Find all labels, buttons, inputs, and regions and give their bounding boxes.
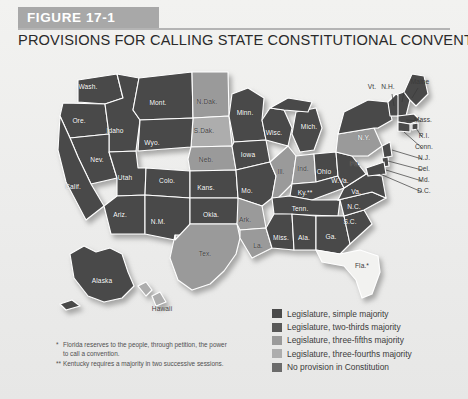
footnote-text: Florida reserves to the people, through …	[63, 341, 227, 348]
footnote-text: to call a convention.	[63, 350, 120, 357]
footnote: **Kentucky requires a majority in two su…	[56, 359, 271, 368]
state-label: Ind.	[297, 165, 308, 172]
state-label: Tex.	[199, 250, 212, 257]
callout-label: N.J.	[418, 154, 430, 161]
state-label: Ark.	[239, 216, 251, 223]
callout-label: Maine	[411, 78, 429, 85]
state-label: Iowa	[241, 151, 255, 158]
callout-label: Del.	[418, 165, 430, 172]
state-label: Alaska	[92, 277, 112, 284]
footnote-text: Kentucky requires a majority in two succ…	[63, 360, 224, 367]
legend-item: Legislature, two-thirds majority	[272, 320, 462, 333]
state-label: Miss.	[273, 234, 289, 241]
state-alaska	[70, 246, 134, 302]
state-label: Ky.**	[298, 189, 313, 196]
state-label: Wash.	[79, 83, 98, 90]
state-label: Kans.	[197, 184, 214, 191]
us-map-svg	[0, 58, 468, 348]
state-label: N.C.	[347, 203, 361, 210]
state-label: Fla.*	[355, 262, 369, 269]
state-label: Wyo.	[144, 139, 159, 146]
state-wisconsin	[262, 108, 292, 146]
figure-number-label: FIGURE 17-1	[27, 10, 115, 25]
footnote: *Florida reserves to the people, through…	[56, 340, 271, 349]
callout-label: Mass.	[414, 116, 432, 123]
state-hawaii	[138, 282, 152, 296]
state-label: S.Dak.	[194, 127, 214, 134]
callout-label: R.I.	[419, 132, 430, 139]
legend-item: No provision in Constitution	[272, 361, 462, 374]
legend-label: Legislature, two-thirds majority	[287, 322, 401, 332]
state-label: N.Dak.	[197, 98, 218, 105]
legend-swatch	[272, 323, 282, 332]
state-florida	[316, 250, 380, 298]
legend-label: No provision in Constitution	[287, 362, 389, 372]
state-new-york	[338, 100, 392, 134]
state-label: La.	[253, 242, 262, 249]
legend-item: Legislature, simple majority	[272, 307, 462, 320]
state-label: Ore.	[72, 117, 85, 124]
state-label: Colo.	[159, 177, 175, 184]
us-map: Wash.Ore.IdahoMont.N.Dak.Minn.Wisc.Mich.…	[0, 58, 468, 348]
state-maryland	[366, 162, 386, 176]
legend-swatch	[272, 336, 282, 345]
state-north-dakota	[192, 72, 229, 118]
state-label: Ariz.	[113, 211, 127, 218]
callout-label: Vt.	[368, 83, 376, 90]
callout-label: Conn.	[415, 143, 433, 150]
callout-label: D.C.	[417, 187, 431, 194]
state-label: Mo.	[241, 187, 252, 194]
state-label: Mont.	[150, 99, 167, 106]
state-label: Mich.	[301, 123, 317, 130]
state-rhode-island	[412, 123, 418, 130]
state-label: Va.	[351, 188, 361, 195]
state-label: Utah	[118, 174, 132, 181]
callout-label: Md.	[418, 176, 429, 183]
legend-swatch	[272, 309, 282, 318]
figure-number-banner: FIGURE 17-1	[18, 7, 159, 28]
footnotes: *Florida reserves to the people, through…	[56, 340, 271, 368]
legend-label: Legislature, simple majority	[287, 309, 388, 319]
state-label: Nev.	[90, 156, 103, 163]
callout-label: N.H.	[381, 83, 395, 90]
state-michigan	[292, 108, 322, 152]
legend-swatch	[272, 349, 282, 358]
footnote-continuation: to call a convention.	[56, 349, 271, 358]
state-label: Ala.	[298, 234, 310, 241]
state-alabama	[292, 214, 316, 250]
state-label: Neb.	[199, 156, 213, 163]
state-alaska-aleutians	[60, 300, 80, 310]
state-label: S.C.	[343, 218, 356, 225]
figure-title: PROVISIONS FOR CALLING STATE CONSTITUTIO…	[18, 32, 458, 48]
state-label: Ill.	[278, 168, 285, 175]
state-label: Hawaii	[152, 305, 172, 312]
state-label: Ga.	[326, 233, 337, 240]
figure-page: FIGURE 17-1 PROVISIONS FOR CALLING STATE…	[0, 0, 468, 399]
legend-label: Legislature, three-fourths majority	[287, 349, 412, 359]
header-divider	[18, 28, 450, 30]
legend-item: Legislature, three-fourths majority	[272, 347, 462, 360]
state-label: Ohio	[317, 168, 331, 175]
state-label: Minn.	[237, 109, 254, 116]
legend-item: Legislature, three-fifths majority	[272, 334, 462, 347]
legend-label: Legislature, three-fifths majority	[287, 335, 404, 345]
state-label: W.Va.	[331, 177, 349, 184]
state-connecticut	[398, 122, 410, 132]
state-new-jersey	[382, 142, 392, 158]
state-label: Calif.	[65, 183, 81, 190]
state-label: Tenn.	[292, 205, 309, 212]
state-label: Okla.	[203, 211, 219, 218]
state-label: N.Y.	[358, 134, 370, 141]
map-legend: Legislature, simple majorityLegislature,…	[272, 307, 462, 374]
state-label: Wisc.	[266, 129, 283, 136]
state-label: Idaho	[106, 127, 123, 134]
footnote-marker: **	[56, 359, 63, 368]
state-texas	[170, 224, 240, 290]
footnote-marker: *	[56, 340, 63, 349]
state-label: N.M.	[151, 218, 165, 225]
state-label: Pa.	[350, 160, 360, 167]
legend-swatch	[272, 363, 282, 372]
state-wyoming	[138, 118, 193, 151]
state-montana	[133, 72, 193, 120]
